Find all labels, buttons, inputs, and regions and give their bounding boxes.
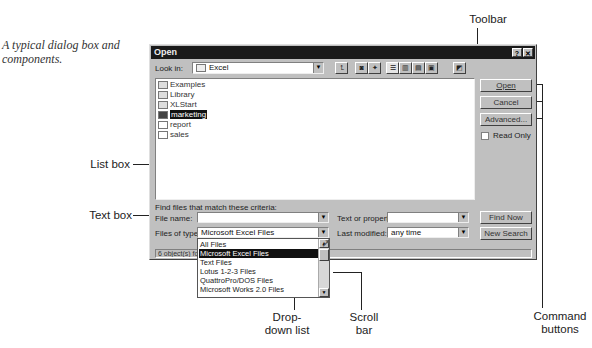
dropdown-option[interactable]: Microsoft Works 2.0 Files [199, 285, 318, 294]
file-name-label: File name: [155, 214, 192, 223]
preview-view-icon[interactable]: ▣ [425, 62, 438, 74]
file-type-dropdown-list[interactable]: All Files Microsoft Excel Files Text Fil… [197, 238, 330, 298]
callout-line [333, 272, 361, 273]
read-only-label: Read Only [493, 131, 531, 140]
file-name-input[interactable]: ▼ [197, 212, 329, 223]
callout-command-buttons: Command buttons [530, 310, 590, 336]
look-in-label: Look in: [155, 64, 183, 73]
look-in-value: Excel [209, 63, 229, 72]
dropdown-option[interactable]: All Files [199, 240, 318, 249]
last-modified-dropdown[interactable]: any time ▼ [387, 227, 469, 238]
callout-scroll-bar: Scroll bar [344, 311, 384, 337]
advanced-button[interactable]: Advanced... [480, 113, 532, 126]
folder-icon [196, 64, 206, 72]
list-item[interactable]: XLStart [158, 100, 197, 110]
chevron-down-icon[interactable]: ▼ [458, 213, 468, 222]
dropdown-option[interactable]: Lotus 1-2-3 Files [199, 267, 318, 276]
folder-icon [158, 101, 168, 109]
open-button[interactable]: Open [480, 79, 532, 92]
look-in-dropdown[interactable]: Excel ▼ [192, 62, 324, 74]
callout-line [361, 272, 362, 310]
dropdown-option[interactable]: QuattroPro/DOS Files [199, 276, 318, 285]
dropdown-option[interactable]: Text Files [199, 258, 318, 267]
chevron-down-icon[interactable]: ▼ [458, 228, 468, 237]
scroll-thumb[interactable] [319, 249, 329, 261]
folder-icon [158, 81, 168, 89]
read-only-checkbox[interactable] [481, 132, 489, 140]
excel-file-icon [158, 131, 168, 139]
chevron-down-icon[interactable]: ▼ [313, 63, 323, 73]
dropdown-option[interactable]: Microsoft Excel Files [199, 249, 318, 258]
search-web-icon[interactable]: ◙ [355, 62, 368, 74]
files-of-type-label: Files of type: [155, 229, 200, 238]
details-view-icon[interactable]: ▥ [399, 62, 412, 74]
list-item[interactable]: Examples [158, 80, 205, 90]
commands-settings-icon[interactable]: ◩ [453, 62, 466, 74]
list-item[interactable]: Library [158, 90, 194, 100]
last-modified-label: Last modified: [337, 229, 387, 238]
callout-toolbar: Toolbar [458, 13, 518, 26]
file-list-box[interactable]: Examples Library XLStart marketing repor… [155, 78, 475, 200]
help-button[interactable]: ? [512, 48, 522, 57]
excel-file-icon [158, 111, 168, 119]
properties-view-icon[interactable]: ▤ [412, 62, 425, 74]
new-search-button[interactable]: New Search [480, 227, 532, 240]
dialog-title: Open [154, 47, 177, 57]
chevron-down-icon[interactable]: ▼ [318, 213, 328, 222]
close-button[interactable]: ✕ [523, 48, 533, 57]
list-view-icon[interactable]: ☰ [386, 62, 399, 74]
list-item[interactable]: report [158, 120, 191, 130]
cancel-button[interactable]: Cancel [480, 96, 532, 109]
folder-icon [158, 91, 168, 99]
title-bar[interactable]: Open ? ✕ [151, 46, 535, 59]
open-dialog: Open ? ✕ Look in: Excel ▼ ⮤ ◙ ✦ ☰ ▥ ▤ ▣ … [149, 44, 537, 260]
list-item[interactable]: marketing [158, 110, 207, 120]
criteria-heading: Find files that match these criteria: [155, 203, 277, 212]
excel-file-icon [158, 121, 168, 129]
figure-caption: A typical dialog box and components. [2, 38, 147, 66]
add-favorites-icon[interactable]: ✦ [368, 62, 381, 74]
scroll-down-icon[interactable]: ▼ [319, 288, 329, 297]
callout-drop-down-list: Drop-down list [262, 311, 312, 337]
files-of-type-dropdown[interactable]: Microsoft Excel Files ▼ [197, 227, 329, 238]
mouse-pointer-icon: ➚ [321, 236, 331, 250]
list-item[interactable]: sales [158, 130, 189, 140]
text-property-input[interactable]: ▼ [387, 212, 469, 223]
callout-list-box: List box [80, 158, 130, 171]
up-one-level-icon[interactable]: ⮤ [335, 62, 348, 74]
find-now-button[interactable]: Find Now [480, 211, 532, 224]
callout-text-box: Text box [80, 209, 132, 222]
